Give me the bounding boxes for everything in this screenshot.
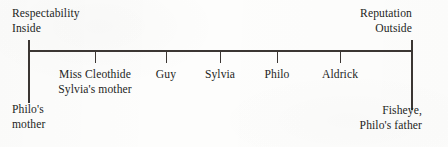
tick-label-philo: Philo	[265, 68, 290, 83]
endpoint-note-left-line2: mother	[12, 118, 45, 133]
tick-label-aldrick-name: Aldrick	[322, 68, 358, 81]
tick-mark-sylvia	[220, 51, 221, 63]
tick-label-miss-cleothide-sub: Sylvia's mother	[58, 83, 131, 98]
endpoint-note-left-line1: Philo's	[12, 103, 45, 118]
axis-endpost-right	[411, 40, 413, 110]
pole-left-line2: Inside	[12, 22, 80, 37]
endpoint-note-right-line1: Fisheye,	[360, 104, 422, 119]
tick-label-sylvia: Sylvia	[205, 68, 235, 83]
tick-label-philo-name: Philo	[265, 68, 290, 81]
tick-label-sylvia-name: Sylvia	[205, 68, 235, 81]
tick-mark-miss-cleothide	[95, 51, 96, 63]
tick-label-guy-name: Guy	[156, 68, 176, 81]
pole-right-line2: Outside	[360, 22, 412, 37]
pole-left-line1: Respectability	[12, 7, 80, 22]
tick-mark-philo	[277, 51, 278, 63]
pole-label-left: Respectability Inside	[12, 7, 80, 36]
pole-right-line1: Reputation	[360, 7, 412, 22]
tick-label-miss-cleothide: Miss Cleothide Sylvia's mother	[58, 68, 131, 97]
tick-mark-guy	[166, 51, 167, 63]
tick-label-aldrick: Aldrick	[322, 68, 358, 83]
spectrum-figure: Respectability Inside Reputation Outside…	[0, 0, 448, 147]
tick-label-miss-cleothide-name: Miss Cleothide	[59, 68, 131, 81]
pole-label-right: Reputation Outside	[360, 7, 412, 36]
axis-endpost-left	[28, 40, 30, 103]
tick-label-guy: Guy	[156, 68, 176, 83]
tick-mark-aldrick	[340, 51, 341, 63]
endpoint-note-right: Fisheye, Philo's father	[360, 104, 422, 133]
endpoint-note-right-line2: Philo's father	[360, 119, 422, 134]
endpoint-note-left: Philo's mother	[12, 103, 45, 132]
